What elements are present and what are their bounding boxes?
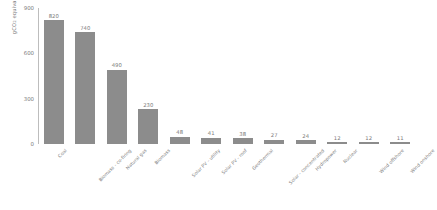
bar-value-label: 27 xyxy=(256,132,292,138)
y-axis-title-subscript: 2 xyxy=(12,20,17,23)
bar[interactable] xyxy=(327,142,347,144)
x-axis-label-slot: Biomass xyxy=(133,146,165,210)
x-axis-tick-labels: CoalBiomass - co-firingNatural gasBiomas… xyxy=(38,146,416,210)
y-axis-tick-label: 0 xyxy=(18,141,34,147)
bar-slot: 24 xyxy=(296,8,316,144)
y-axis-title-suffix: equivalent per kWh xyxy=(11,0,17,20)
y-axis-tick-label: 600 xyxy=(18,50,34,56)
bar-slot: 38 xyxy=(233,8,253,144)
plot-area: 8207404902304841382724121211 xyxy=(38,8,416,144)
bar-value-label: 820 xyxy=(36,13,72,19)
bar[interactable] xyxy=(170,137,190,144)
x-axis-label-slot: Nuclear xyxy=(322,146,354,210)
bar[interactable] xyxy=(44,20,64,144)
bar-slot: 740 xyxy=(75,8,95,144)
x-axis-label-slot: Solar - concentrated xyxy=(259,146,291,210)
bar-slot: 820 xyxy=(44,8,64,144)
bar-value-label: 38 xyxy=(225,131,261,137)
y-axis-tick-label: 300 xyxy=(18,96,34,102)
x-axis-label-slot: Coal xyxy=(38,146,70,210)
bar[interactable] xyxy=(138,109,158,144)
bar-slot: 12 xyxy=(359,8,379,144)
bar-value-label: 41 xyxy=(193,130,229,136)
bar[interactable] xyxy=(233,138,253,144)
bar-value-label: 24 xyxy=(288,133,324,139)
bar-slot: 490 xyxy=(107,8,127,144)
bar-value-label: 230 xyxy=(130,102,166,108)
bar-value-label: 11 xyxy=(382,135,418,141)
bar-value-label: 490 xyxy=(99,62,135,68)
bar[interactable] xyxy=(107,70,127,144)
y-axis-title-prefix: gCO xyxy=(11,23,17,34)
y-axis-tick-labels: 0300600900 xyxy=(18,0,34,210)
bar[interactable] xyxy=(264,140,284,144)
x-axis-label-slot: Biomass - co-firing xyxy=(70,146,102,210)
bar[interactable] xyxy=(201,138,221,144)
x-axis-label-slot: Wind offshore xyxy=(353,146,385,210)
bar-value-label: 48 xyxy=(162,129,198,135)
x-axis-label-slot: Hydropower xyxy=(290,146,322,210)
bar-slot: 230 xyxy=(138,8,158,144)
y-axis-tick-label: 900 xyxy=(18,5,34,11)
bar-slot: 48 xyxy=(170,8,190,144)
bar-slot: 41 xyxy=(201,8,221,144)
bar-slot: 11 xyxy=(390,8,410,144)
x-axis-tick-label: Coal xyxy=(57,148,69,160)
bar-value-label: 12 xyxy=(319,135,355,141)
x-axis-label-slot: Solar PV - utility xyxy=(164,146,196,210)
x-axis-label-slot: Solar PV - roof xyxy=(196,146,228,210)
x-axis-tick-label: Wind onshore xyxy=(410,148,437,175)
bar-slot: 12 xyxy=(327,8,347,144)
x-axis-label-slot: Natural gas xyxy=(101,146,133,210)
bar-value-label: 12 xyxy=(351,135,387,141)
bar[interactable] xyxy=(390,142,410,144)
bar-slot: 27 xyxy=(264,8,284,144)
bar-value-label: 740 xyxy=(67,25,103,31)
bar[interactable] xyxy=(359,142,379,144)
bar[interactable] xyxy=(296,140,316,144)
x-axis-label-slot: Wind onshore xyxy=(385,146,417,210)
bar[interactable] xyxy=(75,32,95,144)
x-axis-label-slot: Geothermal xyxy=(227,146,259,210)
